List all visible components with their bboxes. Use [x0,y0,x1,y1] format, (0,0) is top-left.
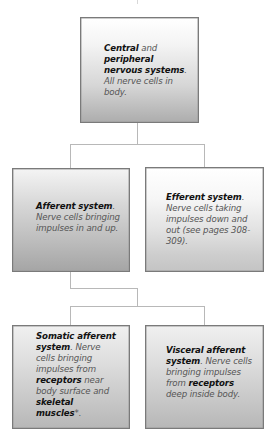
connector-afferent-jog [70,288,138,289]
node-central-peripheral-nervous-systems: Central and peripheral nervous systems. … [80,17,199,123]
connector-to-visceral [204,306,205,325]
node-text: Efferent system. Nerve cells taking impu… [166,192,255,247]
connector-level3-bar [70,306,205,307]
node-keyword-receptors: receptors [188,378,234,388]
connector-to-somatic [70,306,71,325]
node-heading: Afferent system [36,201,112,211]
node-somatic-afferent-system: Somatic afferent system. Nerve cells bri… [12,325,130,429]
node-afferent-system: Afferent system. Nerve cells bringing im… [12,168,130,272]
node-keyword-receptors: receptors [36,375,82,385]
node-text: Visceral afferent system. Nerve cells br… [166,345,255,400]
connector-to-efferent [204,144,205,167]
connector-to-afferent [70,144,71,168]
node-text: Afferent system. Nerve cells bringing im… [36,201,121,234]
connector-afferent-down [70,272,71,289]
node-text: Central and peripheral nervous systems. … [104,43,188,98]
connector-top-stub [137,0,138,4]
node-heading: Efferent system [166,192,242,202]
node-text: Somatic afferent system. Nerve cells bri… [36,331,121,419]
connector-level2-bar [70,144,205,145]
connector-jog-down [137,288,138,307]
node-efferent-system: Efferent system. Nerve cells taking impu… [145,167,264,272]
connector-root-down [137,123,138,144]
node-visceral-afferent-system: Visceral afferent system. Nerve cells br… [145,325,264,429]
node-heading: peripheral nervous systems [104,54,184,75]
node-keyword-skeletal-muscles: skeletal muscles [36,397,74,418]
node-heading: Central [104,43,139,53]
